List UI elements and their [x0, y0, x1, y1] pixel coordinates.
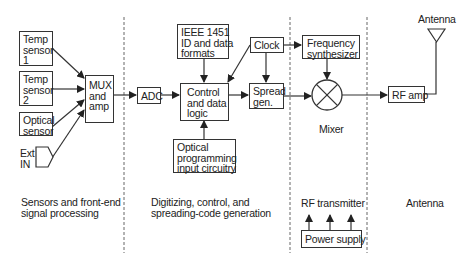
clock-block: Clock	[250, 37, 284, 53]
power-supply-block: Power supply	[301, 230, 362, 248]
ext-in-connector-icon	[36, 147, 53, 167]
arrow-temp1-mux	[52, 48, 84, 78]
ext-in-label: Ext IN	[20, 148, 35, 170]
adc-block: ADC	[137, 87, 161, 104]
block-diagram: Temp sensor 1 Temp sensor 2 Optical sens…	[0, 0, 471, 270]
spread-gen-block: Spread gen.	[249, 83, 284, 109]
arrow-extin-mux	[52, 110, 84, 158]
section-label-digitizing: Digitizing, control, and spreading-code …	[151, 197, 271, 219]
diagram-lines	[0, 0, 471, 270]
line-rfamp-antenna	[424, 42, 436, 94]
arrow-optical-mux	[52, 100, 84, 127]
optical-programming-block: Optical programming input circuitry	[173, 139, 236, 173]
mixer-icon	[312, 80, 342, 110]
section-label-rf-transmitter: RF transmitter	[301, 198, 365, 209]
mux-amp-block: MUX and amp	[85, 75, 114, 123]
section-label-antenna: Antenna	[406, 198, 444, 209]
frequency-synthesizer-block: Frequency synthesizer	[302, 35, 360, 59]
arrow-clock-control	[228, 45, 250, 82]
antenna-label: Antenna	[418, 14, 456, 25]
control-data-logic-block: Control and data logic	[180, 83, 229, 121]
temp-sensor-2-block: Temp sensor 2	[19, 71, 53, 106]
section-label-sensors: Sensors and front-end signal processing	[21, 197, 121, 219]
antenna-icon	[428, 29, 445, 42]
section-label-mixer: Mixer	[319, 124, 344, 135]
optical-sensor-block: Optical sensor	[19, 112, 53, 136]
ieee-1451-block: IEEE 1451 ID and data formats	[177, 24, 229, 59]
rf-amp-block: RF amp	[388, 86, 425, 103]
temp-sensor-1-block: Temp sensor 1	[19, 31, 53, 66]
